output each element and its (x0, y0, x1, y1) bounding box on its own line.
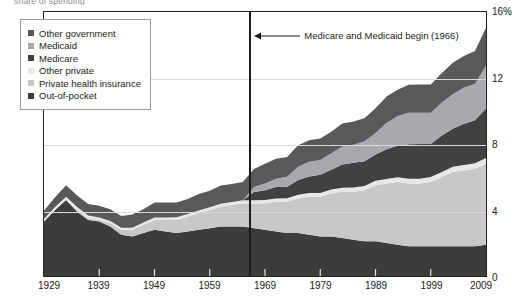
y-axis-tick-label: 4 (492, 205, 498, 216)
legend-item-label: Other government (39, 28, 116, 39)
legend-item: Other private (28, 65, 141, 76)
gridline (44, 212, 486, 213)
x-axis-tick-label: 1929 (38, 280, 60, 291)
legend-swatch-icon (28, 43, 34, 49)
gridline (44, 145, 486, 146)
annotation-text: Medicare and Medicaid begin (1966) (304, 30, 458, 41)
legend-item: Medicaid (28, 40, 141, 51)
x-axis-tick-label: 1999 (420, 280, 442, 291)
legend-item-label: Medicare (39, 53, 78, 64)
legend-swatch-icon (28, 93, 34, 99)
legend-swatch-icon (28, 55, 34, 61)
legend-item-label: Private health insurance (39, 78, 141, 89)
legend-item: Medicare (28, 53, 141, 64)
legend-swatch-icon (28, 68, 34, 74)
legend-item-label: Out-of-pocket (39, 90, 97, 101)
x-axis-tick-label: 1989 (365, 280, 387, 291)
legend-item: Private health insurance (28, 78, 141, 89)
x-axis-tick-label: 1949 (143, 280, 165, 291)
legend-item-label: Medicaid (39, 40, 77, 51)
legend-swatch-icon (28, 30, 34, 36)
y-axis-tick-label: 8 (492, 139, 498, 150)
legend-item: Other government (28, 28, 141, 39)
x-axis-tick-label: 1969 (254, 280, 276, 291)
legend-swatch-icon (28, 80, 34, 86)
y-axis-tick-label: 0 (492, 272, 498, 283)
annotation-medicare-medicaid: Medicare and Medicaid begin (1966) (254, 30, 458, 41)
x-axis-tick-label: 1959 (198, 280, 220, 291)
event-vertical-line (249, 12, 251, 276)
chart-legend: Other governmentMedicaidMedicareOther pr… (20, 19, 151, 110)
left-arrow-icon (254, 31, 300, 41)
x-axis-tick-label: 2009 (470, 280, 492, 291)
legend-item-label: Other private (39, 65, 94, 76)
top-caption-fragment: share of spending (14, 0, 214, 5)
x-axis-tick-label: 1979 (309, 280, 331, 291)
legend-item: Out-of-pocket (28, 90, 141, 101)
y-axis-tick-label: 12 (492, 72, 503, 83)
y-axis-tick-label: 16% (492, 6, 512, 17)
x-axis-tick-label: 1939 (87, 280, 109, 291)
